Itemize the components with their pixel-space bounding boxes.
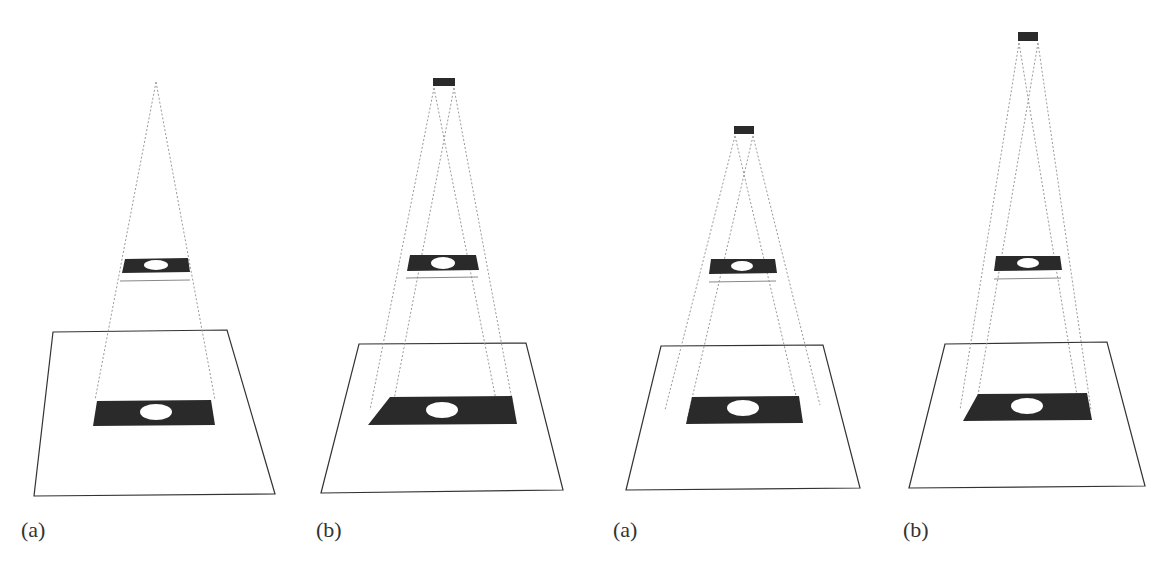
occluder-shadow-line	[406, 277, 478, 278]
occluder-hole	[731, 261, 753, 271]
occluder-hole	[1017, 258, 1039, 268]
projected-hole	[140, 404, 172, 420]
figure-canvas	[0, 0, 1167, 568]
frustum-line	[392, 88, 454, 410]
frustum-line	[370, 88, 434, 410]
frustum-line	[960, 43, 1019, 410]
frustum-line	[687, 136, 753, 420]
frustum-line	[156, 82, 215, 400]
projected-hole	[1011, 398, 1043, 414]
frustum-line	[454, 88, 512, 400]
light-source-box	[433, 78, 455, 86]
projected-hole	[727, 400, 759, 416]
panel-3-diagram	[626, 126, 860, 490]
occluder-hole	[431, 257, 455, 269]
panel-2-diagram	[321, 78, 563, 493]
light-source-box	[734, 126, 754, 134]
panel-3-label: (a)	[613, 517, 637, 543]
frustum-line	[95, 82, 156, 400]
panel-1-diagram	[34, 82, 275, 496]
projected-hole	[426, 402, 458, 418]
occluder-shadow-line	[994, 278, 1061, 279]
frustum-line	[434, 88, 496, 400]
occluder-shadow-line	[120, 280, 190, 281]
occluder-hole	[144, 260, 168, 270]
panel-1-label: (a)	[21, 517, 45, 543]
panel-4-diagram	[909, 32, 1145, 488]
frustum-line	[978, 43, 1038, 395]
light-source-box	[1018, 32, 1038, 41]
panel-2-label: (b)	[316, 517, 342, 543]
frustum-line	[1038, 43, 1091, 410]
panel-4-label: (b)	[903, 517, 929, 543]
